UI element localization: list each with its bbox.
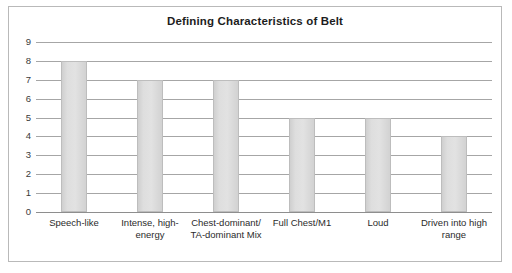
category-label-line: Speech-like [36,217,112,229]
bar [289,118,315,212]
bar [61,61,87,212]
x-axis-line [36,212,492,213]
chart-title: Defining Characteristics of Belt [9,15,501,27]
category-label-line: Chest-dominant/ [188,217,264,229]
y-axis-tick-label: 0 [26,207,31,217]
y-axis-tick-label: 5 [26,113,31,123]
y-axis-tick-label: 6 [26,94,31,104]
plot-area: 0123456789 [36,42,492,212]
bar-slot [112,42,188,212]
category-label: Intense, high-energy [112,217,188,240]
y-axis-tick-label: 3 [26,151,31,161]
category-label-line: energy [112,229,188,241]
bar-slot [188,42,264,212]
category-label-line: Intense, high- [112,217,188,229]
bar-series [36,42,492,212]
category-label-line: range [416,229,492,241]
bar-slot [340,42,416,212]
bar-slot [416,42,492,212]
category-label: Driven into highrange [416,217,492,240]
category-label-line: Loud [340,217,416,229]
y-axis-tick-label: 1 [26,188,31,198]
category-label-line: Full Chest/M1 [264,217,340,229]
chart-frame: Defining Characteristics of Belt 0123456… [8,6,502,262]
category-label: Full Chest/M1 [264,217,340,229]
bar-slot [36,42,112,212]
category-label: Chest-dominant/TA-dominant Mix [188,217,264,240]
y-axis-tick-label: 9 [26,37,31,47]
bar-slot [264,42,340,212]
y-axis-tick-label: 4 [26,132,31,142]
y-axis-tick-label: 7 [26,75,31,85]
category-label-line: Driven into high [416,217,492,229]
category-label: Speech-like [36,217,112,229]
category-label: Loud [340,217,416,229]
bar [137,80,163,212]
bar [441,136,467,212]
category-axis-labels: Speech-likeIntense, high-energyChest-dom… [36,217,492,259]
category-label-line: TA-dominant Mix [188,229,264,241]
bar [213,80,239,212]
bar [365,118,391,212]
y-axis-tick-label: 8 [26,56,31,66]
y-axis-tick-label: 2 [26,169,31,179]
